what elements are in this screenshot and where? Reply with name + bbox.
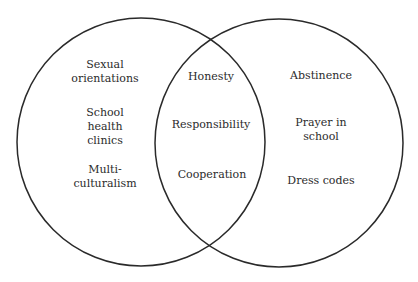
right-only-region: Abstinence Prayer in school Dress codes [287, 69, 355, 187]
left-item-sexual-orientations-line1: Sexual [86, 58, 124, 71]
shared-item-honesty: Honesty [188, 70, 235, 83]
left-item-school-health-clinics-line3: clinics [87, 134, 123, 147]
intersection-region: Honesty Responsibility Cooperation [172, 70, 251, 181]
right-item-prayer-in-school-line2: school [303, 130, 339, 143]
right-item-dress-codes: Dress codes [287, 174, 355, 187]
left-circle [17, 18, 265, 266]
right-item-abstinence: Abstinence [289, 69, 352, 82]
right-circle [155, 19, 403, 267]
left-item-multiculturalism-line2: culturalism [73, 177, 137, 190]
shared-item-responsibility: Responsibility [172, 118, 251, 131]
left-item-sexual-orientations-line2: orientations [71, 72, 139, 85]
venn-diagram: Sexual orientations School health clinic… [0, 0, 418, 282]
shared-item-cooperation: Cooperation [178, 168, 247, 181]
right-item-prayer-in-school-line1: Prayer in [295, 116, 346, 129]
left-item-school-health-clinics-line1: School [86, 106, 124, 119]
left-only-region: Sexual orientations School health clinic… [71, 58, 139, 190]
left-item-multiculturalism-line1: Multi- [88, 163, 122, 176]
left-item-school-health-clinics-line2: health [87, 120, 122, 133]
